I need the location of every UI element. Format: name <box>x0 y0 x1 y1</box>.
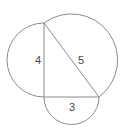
base-side-label: 3 <box>69 101 75 113</box>
vertical-side-label: 4 <box>35 54 41 66</box>
triangle-semicircles-diagram: 4 5 3 <box>0 0 121 129</box>
hypotenuse-side <box>44 23 99 97</box>
hypotenuse-label: 5 <box>78 54 84 66</box>
